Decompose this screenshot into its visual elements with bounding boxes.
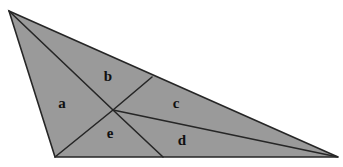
region-label-c: c [173,95,180,111]
region-label-b: b [104,68,112,84]
triangle-diagram: a b c d e [0,0,343,167]
figure-container: a b c d e [0,0,343,167]
triangle-shape [9,11,338,157]
region-label-e: e [107,125,114,141]
region-label-d: d [178,132,187,148]
region-label-a: a [58,95,66,111]
